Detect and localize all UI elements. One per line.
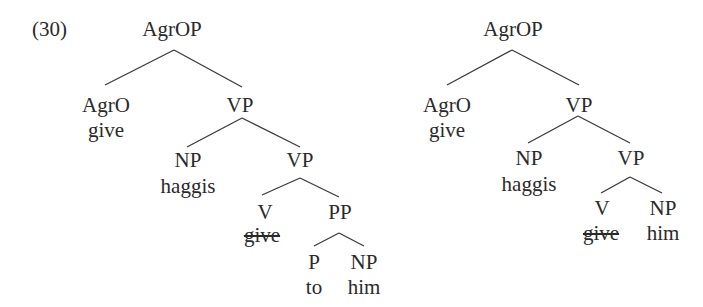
tree-node-label: NP (650, 197, 677, 219)
tree-branch (447, 50, 512, 85)
tree-node-label: AgrO (423, 94, 471, 116)
tree-branch (339, 233, 364, 246)
tree-node-label: V (257, 201, 272, 223)
tree-node-label: NP (516, 147, 543, 169)
tree-node-label: NP (175, 149, 202, 171)
tree-node-label: PP (328, 201, 351, 223)
tree-branch (300, 178, 339, 197)
tree-branch (314, 233, 339, 246)
tree-branch (174, 50, 242, 87)
tree-branch (512, 50, 579, 85)
tree-branch (630, 177, 662, 193)
tree-node-label: give (88, 119, 124, 141)
tree-node-label: V (594, 197, 609, 219)
tree-node-label: AgrOP (142, 18, 202, 40)
tree-node-label: to (306, 276, 322, 298)
tree-node-label: VP (566, 94, 593, 116)
tree-branch (105, 50, 174, 85)
tree-node-label: him (647, 222, 680, 244)
tree-branch (242, 118, 300, 147)
tree-node-label: give (583, 222, 619, 244)
tree-node-label: give (244, 224, 280, 246)
tree-node-label: VP (287, 149, 314, 171)
tree-branch (187, 118, 242, 147)
tree-node-label: P (308, 251, 320, 273)
tree-branch (601, 177, 630, 193)
tree-node-label: AgrO (82, 94, 130, 116)
tree-node-label: NP (351, 251, 378, 273)
tree-node-label: AgrOP (483, 18, 543, 40)
tree-node-label: VP (618, 147, 645, 169)
tree-branch (578, 116, 630, 143)
tree-node-label: VP (227, 94, 254, 116)
tree-node-label: haggis (161, 175, 216, 197)
tree-node-label: haggis (502, 173, 557, 195)
tree-node-label: him (348, 276, 381, 298)
tree-node-label: give (429, 119, 465, 141)
syntax-tree-figure: (30) AgrOPAgrOgiveVPNPhaggisVPVgivePPPto… (0, 0, 703, 307)
tree-branch (528, 116, 578, 143)
tree-branch (262, 178, 300, 195)
